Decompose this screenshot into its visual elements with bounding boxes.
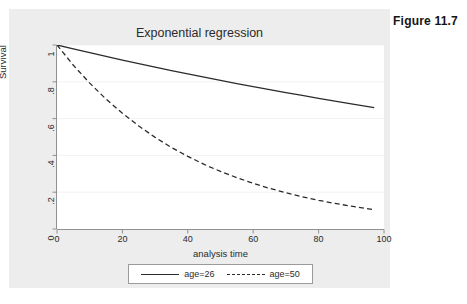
y-tick-label: .6 [29, 113, 51, 125]
y-tick-label-text: .8 [45, 82, 57, 100]
y-tick-label: 1 [29, 39, 51, 51]
data-series-group [57, 45, 374, 210]
series-line-age-50 [57, 45, 374, 210]
y-tick-label-text: .4 [45, 155, 57, 173]
legend-entry-age-26[interactable]: age=26 [141, 269, 214, 279]
legend-key-solid [141, 274, 179, 275]
y-tick-label-text: 1 [45, 45, 57, 63]
x-tick-label: 60 [238, 234, 268, 244]
y-tick-label: .8 [29, 76, 51, 88]
figure-caption: Figure 11.7 [393, 14, 458, 28]
legend-label: age=26 [184, 269, 214, 279]
y-tick-label: .2 [29, 186, 51, 198]
x-tick-label: 80 [304, 234, 334, 244]
x-tick-label: 20 [107, 234, 137, 244]
chart-title: Exponential regression [9, 26, 390, 40]
graph-region: Exponential regression Survival 0.2.4.6.… [9, 9, 390, 288]
figure-container: Figure 11.7 Exponential regression Survi… [0, 0, 467, 304]
plot-svg [57, 45, 384, 229]
x-tick-label: 0 [42, 234, 72, 244]
legend-entry-age-50[interactable]: age=50 [227, 269, 300, 279]
series-line-age-26 [57, 45, 374, 108]
gridlines [57, 45, 384, 192]
y-tick-label-text: .2 [45, 192, 57, 210]
x-tick-label: 40 [173, 234, 203, 244]
legend[interactable]: age=26age=50 [128, 264, 313, 284]
legend-label: age=50 [270, 269, 300, 279]
y-tick-label-text: .6 [45, 119, 57, 137]
x-axis-label: analysis time [57, 248, 384, 259]
legend-key-dashed [227, 274, 265, 275]
y-axis-label: Survival [0, 45, 8, 79]
x-tick-label: 100 [369, 234, 399, 244]
plot-region [57, 45, 384, 229]
y-tick-label: .4 [29, 149, 51, 161]
